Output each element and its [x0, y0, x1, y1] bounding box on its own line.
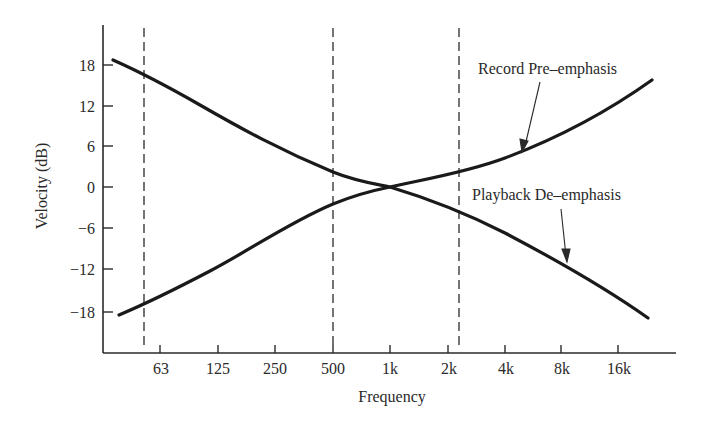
x-axis-title: Frequency: [358, 388, 426, 406]
record-arrow: [520, 82, 540, 152]
playback-de-emphasis-label: Playback De–emphasis: [472, 186, 621, 204]
x-tick-label: 4k: [498, 360, 514, 377]
y-tick-label: 18: [79, 57, 95, 74]
x-tick-label: 16k: [607, 360, 631, 377]
x-ticks: [160, 345, 618, 353]
y-tick-label: 12: [79, 98, 95, 115]
x-tick-labels: 63 125 250 500 1k 2k 4k 8k 16k: [153, 360, 631, 377]
x-tick-label: 8k: [554, 360, 570, 377]
y-tick-label: −18: [70, 304, 95, 321]
x-tick-label: 2k: [441, 360, 457, 377]
y-tick-label: −12: [70, 261, 95, 278]
playback-arrow: [561, 209, 570, 262]
y-axis-title: Velocity (dB): [33, 143, 51, 230]
x-tick-label: 125: [206, 360, 230, 377]
pre-emphasis-chart: 18 12 6 0 −6 −12 −18 63 125 250 500 1k 2…: [0, 0, 703, 427]
x-tick-label: 63: [153, 360, 169, 377]
x-tick-label: 250: [263, 360, 287, 377]
y-ticks: [103, 65, 113, 312]
dashed-reference-lines: [144, 28, 459, 350]
y-tick-label: 0: [87, 179, 95, 196]
record-pre-emphasis-label: Record Pre–emphasis: [478, 60, 617, 78]
x-tick-label: 500: [321, 360, 345, 377]
x-tick-label: 1k: [382, 360, 398, 377]
y-tick-label: 6: [87, 138, 95, 155]
y-tick-labels: 18 12 6 0 −6 −12 −18: [70, 57, 95, 321]
y-tick-label: −6: [78, 220, 95, 237]
